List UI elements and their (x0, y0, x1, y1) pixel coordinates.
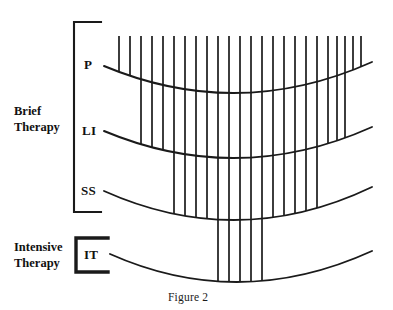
rib-lines-group (119, 36, 361, 282)
row-label-it: IT (84, 248, 98, 261)
group-label-brief-line-1: Brief (14, 104, 60, 120)
group-label-intensive-line-1: Intensive (14, 240, 63, 256)
curve-p (104, 62, 372, 93)
group-label-brief-line-2: Therapy (14, 120, 60, 136)
curve-ss (104, 187, 372, 220)
group-label-intensive-therapy: Intensive Therapy (14, 240, 63, 271)
figure-2-diagram: P LI SS IT Brief Therapy Intensive Thera… (0, 0, 393, 310)
curve-it (110, 251, 372, 282)
group-label-brief-therapy: Brief Therapy (14, 104, 60, 135)
row-label-ss: SS (81, 184, 96, 197)
curve-li (104, 127, 372, 158)
group-label-intensive-line-2: Therapy (14, 256, 63, 272)
row-label-p: P (84, 58, 92, 71)
row-label-li: LI (82, 124, 96, 137)
figure-caption: Figure 2 (168, 291, 208, 303)
curve-lines-group (104, 62, 372, 282)
